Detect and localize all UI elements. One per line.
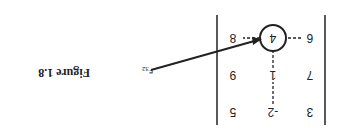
cell-1-2: -2	[263, 105, 283, 119]
cell-2-3: 9	[223, 68, 243, 82]
cell-3-1: 6	[300, 31, 320, 45]
cell-2-2: 1	[263, 68, 283, 82]
cell-1-1: 3	[300, 105, 320, 119]
cell-3-2-highlighted: 4	[263, 31, 283, 45]
element-label: e32	[142, 65, 153, 78]
figure-canvas: 3 -2 5 7 1 9 6 4 8 e32 Figure 1.8	[0, 0, 343, 130]
cell-2-1: 7	[300, 68, 320, 82]
label-letter: e	[149, 68, 153, 78]
cell-1-3: 5	[223, 105, 243, 119]
label-subscript: 32	[142, 65, 149, 73]
figure-caption: Figure 1.8	[38, 65, 90, 80]
cell-3-3: 8	[223, 31, 243, 45]
